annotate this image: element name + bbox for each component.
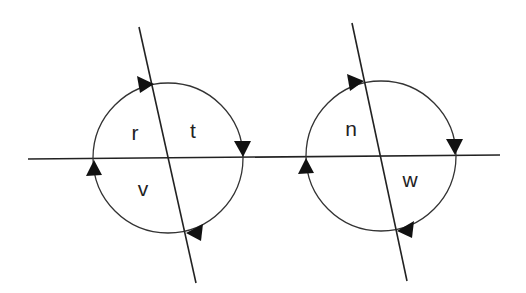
label-n: n <box>345 117 357 140</box>
left-slanted-line <box>139 27 196 283</box>
diagram-canvas: r t v n w <box>0 0 526 293</box>
right-slanted-line <box>352 23 407 281</box>
arrow-right-icon <box>137 76 154 93</box>
label-v: v <box>138 177 149 200</box>
arrow-left-icon <box>186 224 203 241</box>
label-r: r <box>132 121 139 144</box>
arrow-down-icon <box>234 141 251 157</box>
left-figure: r t v <box>86 27 251 283</box>
arrow-down-icon <box>446 139 463 155</box>
label-t: t <box>190 119 196 142</box>
arrow-up-icon <box>86 160 102 176</box>
arrow-up-icon <box>298 158 314 174</box>
label-w: w <box>401 168 418 191</box>
right-figure: n w <box>298 23 463 281</box>
horizontal-line <box>28 155 500 159</box>
arrow-left-icon <box>397 221 414 238</box>
